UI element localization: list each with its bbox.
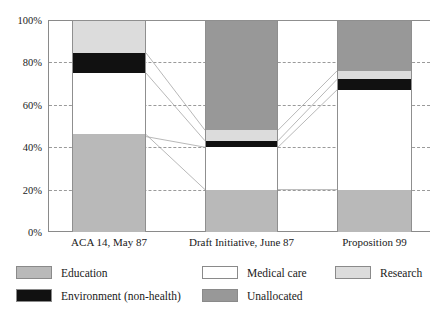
legend-swatch-environment-icon (16, 289, 52, 302)
segment-environment[interactable] (337, 79, 412, 90)
segment-unallocated[interactable] (337, 20, 412, 71)
legend-swatch-medical-icon (202, 266, 238, 279)
y-tick-80: 80% (23, 57, 42, 68)
segment-unallocated[interactable] (205, 20, 278, 130)
legend-label-education: Education (61, 267, 108, 279)
legend-item-environment[interactable]: Environment (non-health) (16, 289, 181, 302)
segment-education[interactable] (72, 134, 146, 232)
x-label-draft-initiative: Draft Initiative, June 87 (165, 236, 318, 248)
bar-top-edge (206, 20, 277, 21)
y-tick-60: 60% (23, 99, 42, 110)
x-label-aca-14: ACA 14, May 87 (39, 236, 179, 248)
segment-research[interactable] (205, 130, 278, 141)
legend-item-research[interactable]: Research (335, 266, 422, 279)
bar-top-edge (73, 20, 145, 21)
legend-item-unallocated[interactable]: Unallocated (202, 289, 303, 302)
segment-medical[interactable] (72, 73, 146, 134)
segment-education[interactable] (205, 190, 278, 232)
x-label-proposition-99: Proposition 99 (311, 236, 438, 248)
y-tick-20: 20% (23, 184, 42, 195)
segment-environment[interactable] (72, 53, 146, 73)
bar-proposition-99[interactable] (337, 20, 412, 232)
legend-item-medical-care[interactable]: Medical care (202, 266, 307, 279)
segment-research[interactable] (337, 71, 412, 79)
bar-aca-14[interactable] (72, 20, 146, 232)
legend-label-environment: Environment (non-health) (61, 290, 181, 302)
segment-education[interactable] (337, 190, 412, 232)
legend-label-research: Research (380, 267, 422, 279)
legend-swatch-research-icon (335, 266, 371, 279)
segment-medical[interactable] (337, 90, 412, 190)
y-tick-100: 100% (18, 15, 43, 26)
stacked-bar-chart: 100% 80% 60% 40% 20% 0% (0, 0, 439, 317)
segment-medical[interactable] (205, 147, 278, 189)
legend-label-medical-care: Medical care (247, 267, 307, 279)
legend-label-unallocated: Unallocated (247, 290, 303, 302)
legend-item-education[interactable]: Education (16, 266, 108, 279)
bar-top-edge (338, 20, 411, 21)
segment-research[interactable] (72, 20, 146, 53)
bar-draft-initiative[interactable] (205, 20, 278, 232)
legend: Education Environment (non-health) Medic… (0, 263, 439, 311)
legend-swatch-education-icon (16, 266, 52, 279)
segment-environment[interactable] (205, 141, 278, 147)
legend-swatch-unallocated-icon (202, 289, 238, 302)
y-tick-40: 40% (23, 142, 42, 153)
